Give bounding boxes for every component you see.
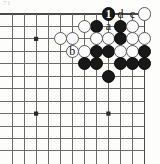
star-point <box>34 37 38 41</box>
white-stone <box>126 20 139 33</box>
black-stone <box>90 45 103 58</box>
black-stone <box>102 70 115 83</box>
board-marker-a: a <box>100 20 116 32</box>
black-stone <box>138 45 151 58</box>
board-marker-c: c <box>125 8 141 20</box>
star-point <box>106 112 110 116</box>
go-board-diagram: 71 1dcab <box>0 0 160 164</box>
board-marker-b: b <box>64 45 80 57</box>
white-stone <box>78 20 91 33</box>
star-point <box>34 112 38 116</box>
